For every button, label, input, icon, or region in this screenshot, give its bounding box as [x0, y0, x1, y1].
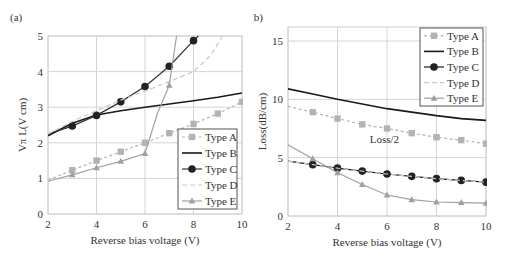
x-tick-label: 6: [384, 220, 390, 232]
chart-panel-a: (a)246810012345Reverse bias voltage (V)V…: [0, 0, 253, 260]
y-axis-label: Loss(dB/cm): [256, 92, 269, 150]
legend-label: Type C: [447, 61, 479, 73]
legend-label: Type C: [205, 163, 237, 175]
series-type-c: [288, 161, 490, 186]
x-tick-label: 2: [285, 220, 291, 232]
x-tick-label: 8: [434, 220, 440, 232]
legend: Type AType BType CType DType E: [420, 28, 483, 106]
legend-label: Type E: [205, 195, 237, 207]
x-tick-label: 4: [335, 220, 341, 232]
y-tick-label: 15: [272, 35, 284, 47]
legend-label: Type D: [447, 77, 480, 89]
y-tick-label: 1: [38, 172, 44, 184]
x-tick-label: 10: [481, 220, 493, 232]
y-tick-label: 10: [272, 93, 284, 105]
x-tick-label: 6: [142, 218, 148, 230]
legend-label: Type E: [447, 92, 479, 104]
x-tick-label: 4: [94, 218, 100, 230]
y-tick-label: 0: [38, 208, 44, 220]
legend-label: Type A: [205, 131, 237, 143]
y-tick-label: 0: [278, 210, 284, 222]
y-tick-label: 3: [38, 101, 44, 113]
y-tick-label: 5: [278, 152, 284, 164]
series-type-e: [48, 36, 177, 181]
annotation-label: Loss/2: [370, 133, 399, 145]
y-axis-label: Vπ L(V cm): [16, 98, 29, 153]
x-tick-label: 8: [191, 218, 197, 230]
x-tick-label: 10: [237, 218, 249, 230]
panel-label: (a): [10, 11, 23, 24]
y-tick-label: 2: [38, 137, 44, 149]
legend-label: Type D: [205, 179, 238, 191]
legend: Type AType BType CType DType E: [178, 129, 238, 209]
legend-label: Type B: [205, 147, 237, 159]
x-tick-label: 2: [45, 218, 51, 230]
x-axis-label: Reverse bias voltage (V): [332, 236, 441, 249]
chart-panel-b: (b)246810051015Reverse bias voltage (V)L…: [253, 0, 506, 260]
series-type-d: [48, 36, 223, 134]
legend-label: Type A: [447, 30, 479, 42]
y-tick-label: 5: [38, 30, 44, 42]
y-tick-label: 4: [38, 66, 44, 78]
series-type-c: [48, 36, 198, 134]
x-axis-label: Reverse bias voltage (V): [90, 234, 199, 247]
panel-label: (b): [253, 11, 263, 24]
legend-label: Type B: [447, 45, 479, 57]
